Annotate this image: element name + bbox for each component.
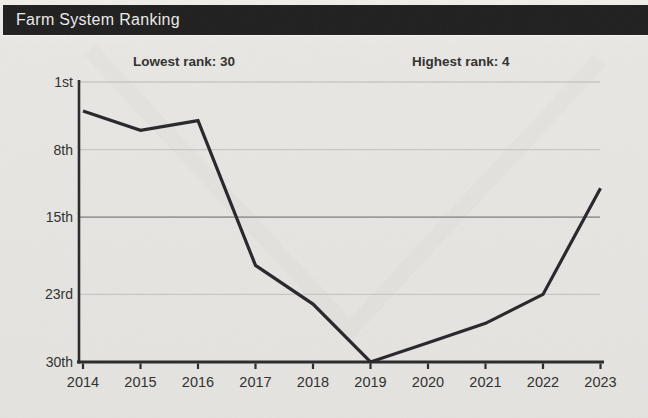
farm-system-ranking-panel: Farm System Ranking Lowest rank: 30 High…: [0, 0, 648, 418]
scan-noise-overlay: [0, 0, 648, 418]
ranking-chart: 2014201520162017201820192020202120222023…: [0, 0, 648, 418]
